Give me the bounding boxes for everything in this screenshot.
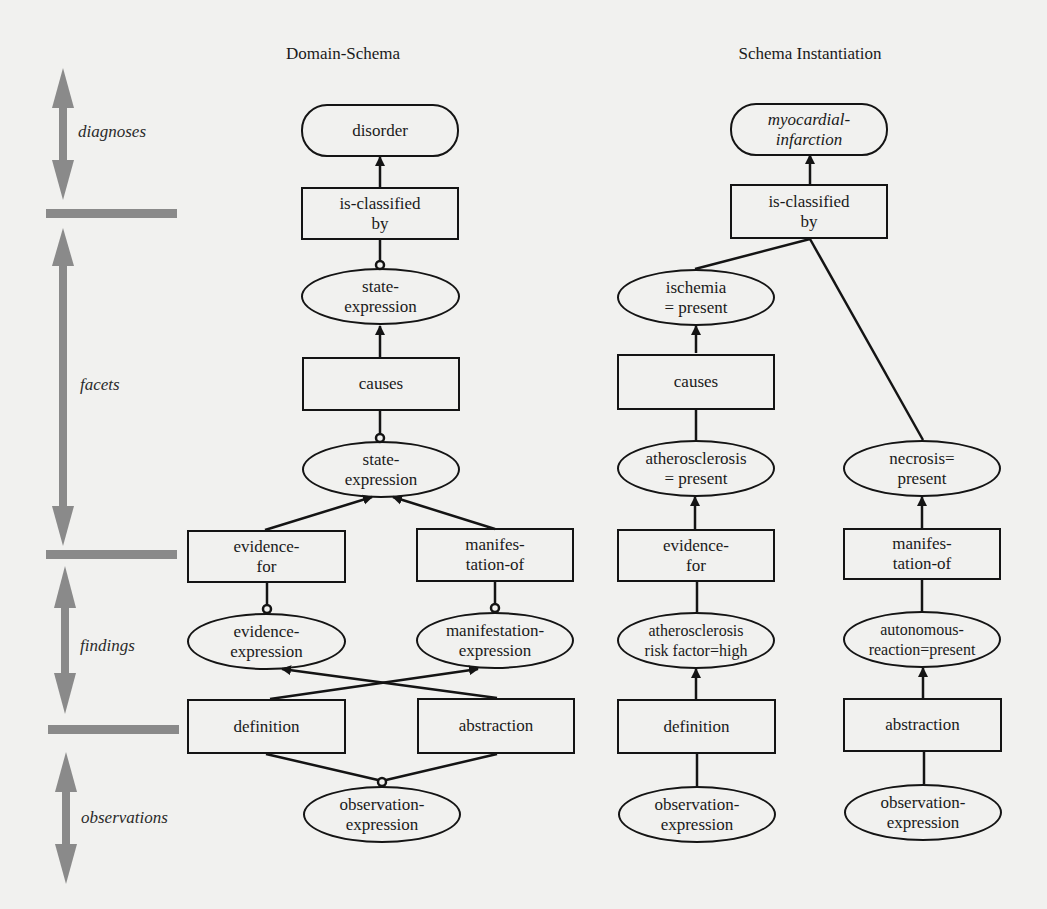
node-necrosis-present[interactable]: necrosis= present: [843, 440, 1001, 497]
schema-instantiation-title: Schema Instantiation: [700, 44, 920, 64]
node-causes[interactable]: causes: [302, 357, 460, 411]
node-manifestation-of-instance[interactable]: manifes- tation-of: [843, 528, 1001, 580]
domain-schema-title: Domain-Schema: [258, 44, 428, 64]
node-manifestation-of[interactable]: manifes- tation-of: [416, 528, 574, 582]
double-arrow-icon: [54, 566, 76, 714]
level-label-findings: findings: [80, 636, 135, 656]
node-abstraction[interactable]: abstraction: [417, 698, 575, 754]
level-label-observations: observations: [81, 808, 168, 828]
node-definition-instance[interactable]: definition: [617, 699, 776, 754]
node-evidence-expression[interactable]: evidence- expression: [187, 613, 346, 670]
double-arrow-icon: [55, 752, 77, 884]
node-is-classified-by-instance[interactable]: is-classified by: [730, 184, 888, 239]
node-definition[interactable]: definition: [187, 699, 346, 754]
node-is-classified-by[interactable]: is-classified by: [301, 187, 459, 240]
node-state-expression-upper[interactable]: state- expression: [301, 268, 460, 325]
level-label-diagnoses: diagnoses: [78, 122, 146, 142]
node-manifestation-expression[interactable]: manifestation- expression: [416, 612, 574, 669]
node-observation-expression-left-instance[interactable]: observation- expression: [618, 786, 776, 843]
node-myocardial-infarction[interactable]: myocardial- infarction: [730, 103, 888, 156]
node-evidence-for[interactable]: evidence- for: [187, 530, 346, 583]
level-arrows: [46, 68, 179, 884]
node-autonomous-reaction-present[interactable]: autonomous- reaction=present: [843, 611, 1001, 668]
node-observation-expression-right-instance[interactable]: observation- expression: [844, 784, 1002, 841]
node-evidence-for-instance[interactable]: evidence- for: [617, 529, 775, 582]
level-separator: [48, 725, 179, 734]
node-causes-instance[interactable]: causes: [617, 354, 775, 410]
level-separator: [46, 550, 177, 559]
double-arrow-icon: [52, 228, 74, 546]
node-abstraction-instance[interactable]: abstraction: [843, 698, 1002, 752]
level-label-facets: facets: [80, 375, 120, 395]
node-disorder[interactable]: disorder: [301, 104, 459, 157]
double-arrow-icon: [52, 68, 74, 200]
node-ischemia-present[interactable]: ischemia = present: [617, 269, 775, 326]
node-state-expression-lower[interactable]: state- expression: [302, 441, 460, 498]
level-separator: [46, 209, 177, 218]
node-observation-expression[interactable]: observation- expression: [303, 786, 461, 843]
node-atherosclerosis-risk-factor-high[interactable]: atherosclerosis risk factor=high: [617, 612, 775, 669]
node-atherosclerosis-present[interactable]: atherosclerosis = present: [617, 440, 775, 497]
diagram-canvas: Domain-Schema Schema Instantiation diagn…: [0, 0, 1047, 909]
